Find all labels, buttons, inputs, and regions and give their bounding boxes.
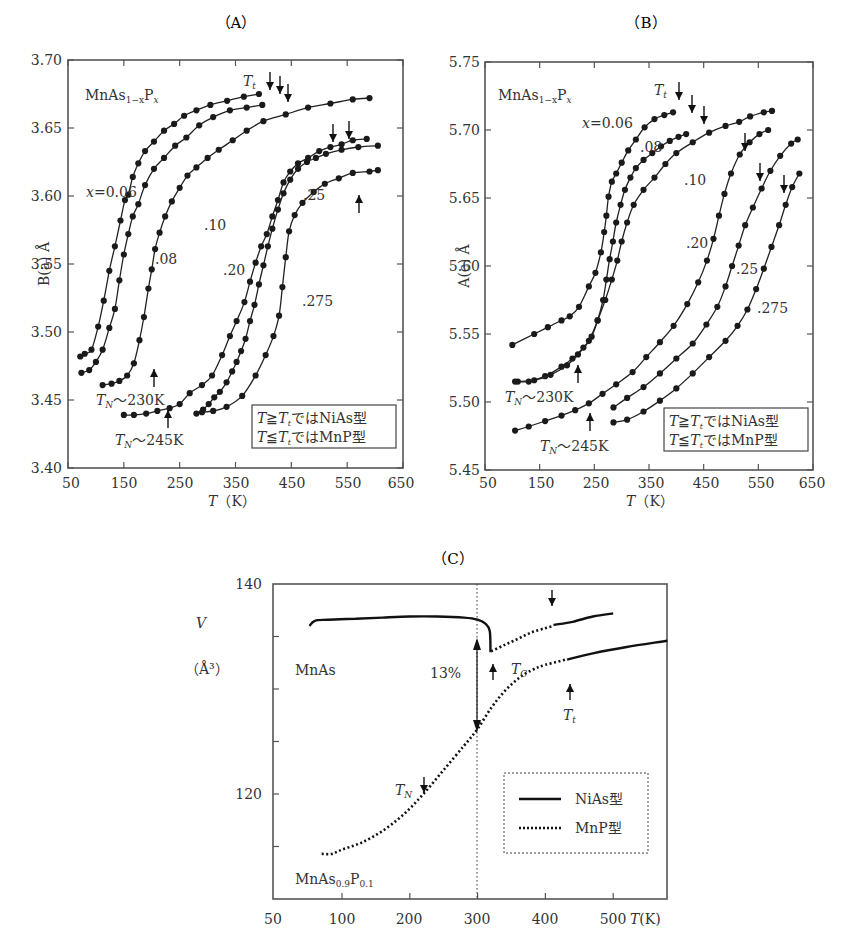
- arrow-down-icon: [675, 92, 683, 100]
- panel-c-x-axis-title: T(K): [630, 911, 661, 927]
- data-point: [512, 427, 518, 433]
- data-point: [280, 190, 286, 196]
- x-tick-label: 450: [693, 475, 720, 491]
- data-point: [151, 166, 157, 172]
- data-point: [640, 157, 646, 163]
- data-point: [737, 151, 743, 157]
- data-point: [305, 105, 311, 111]
- y-tick-label: 5.65: [449, 190, 480, 206]
- data-point: [78, 370, 84, 376]
- panel-c: （C） 140 120 50 100 200 300 400 500 T(K) …: [185, 550, 667, 927]
- data-point: [292, 212, 298, 218]
- data-point: [209, 372, 215, 378]
- data-point: [279, 284, 285, 290]
- data-point: [703, 321, 709, 327]
- data-point: [767, 168, 773, 174]
- data-point: [690, 340, 696, 346]
- y-tick-label: 3.60: [31, 188, 62, 204]
- data-point: [117, 217, 123, 223]
- data-point: [121, 251, 127, 257]
- data-point: [286, 228, 292, 234]
- data-point: [199, 382, 205, 388]
- data-point: [313, 155, 319, 161]
- tc-label: TC: [511, 661, 527, 679]
- data-point: [219, 352, 225, 358]
- thirteen-percent-label: 13%: [430, 665, 461, 681]
- data-point: [283, 254, 289, 260]
- data-point: [106, 325, 112, 331]
- data-point: [796, 170, 802, 176]
- data-point: [256, 281, 262, 287]
- panel-b: （B） 5.75 5.70 5.65 5.60 5.55 5.50 5.45 5…: [449, 14, 826, 509]
- data-point: [673, 355, 679, 361]
- data-point: [610, 404, 616, 410]
- data-point: [624, 395, 630, 401]
- data-point: [106, 268, 112, 274]
- data-point: [756, 131, 762, 137]
- data-point: [670, 109, 676, 115]
- data-point: [640, 384, 646, 390]
- tn-label: TN: [395, 782, 413, 800]
- data-point: [625, 147, 631, 153]
- curve-label-x006: x=0.06: [582, 115, 633, 131]
- data-point: [269, 213, 275, 219]
- panel-c-y-axis-unit: （Å³）: [185, 660, 229, 677]
- data-point: [657, 370, 663, 376]
- data-point: [610, 419, 616, 425]
- data-point: [242, 336, 248, 342]
- y-tick-label: 120: [235, 786, 262, 802]
- curve-label-x025: .25: [303, 187, 325, 203]
- data-point: [141, 314, 147, 320]
- data-point: [112, 306, 118, 312]
- data-point: [769, 108, 775, 114]
- x-tick-label: 250: [583, 475, 610, 491]
- data-point: [750, 204, 756, 210]
- mnas-p-label: MnAs0.9P0.1: [295, 871, 374, 889]
- x-tick-label: 200: [396, 911, 423, 927]
- data-point: [567, 313, 573, 319]
- data-point: [607, 256, 613, 262]
- data-point: [542, 418, 548, 424]
- data-point: [531, 331, 537, 337]
- panel-c-y-axis-title: V: [196, 615, 208, 631]
- data-point: [100, 347, 106, 353]
- data-point: [116, 277, 122, 283]
- x-tick-label: 500: [600, 911, 627, 927]
- data-point: [238, 348, 244, 354]
- panel-b-compound-label: MnAs1−xPx: [498, 87, 572, 105]
- y-tick-label: 140: [235, 576, 262, 592]
- data-point: [509, 342, 515, 348]
- data-point: [619, 238, 625, 244]
- data-point: [765, 127, 771, 133]
- data-point: [151, 139, 157, 145]
- x-tick-label: 400: [532, 911, 559, 927]
- data-point: [276, 313, 282, 319]
- panel-a-y-axis-title: B(a) Å: [35, 241, 52, 286]
- arrow-down-icon: [276, 86, 284, 94]
- data-point: [613, 219, 619, 225]
- arrow-up-icon: [586, 413, 594, 421]
- curve-x010: [103, 98, 370, 385]
- data-point: [156, 230, 162, 236]
- y-tick-label: 3.65: [31, 120, 62, 136]
- data-point: [633, 165, 639, 171]
- data-point: [275, 207, 281, 213]
- data-point: [777, 153, 783, 159]
- data-point: [592, 270, 598, 276]
- data-point: [130, 213, 136, 219]
- data-point: [675, 134, 681, 140]
- x-tick-label: 550: [335, 475, 362, 491]
- data-point: [239, 393, 245, 399]
- data-point: [244, 128, 250, 134]
- data-point: [224, 98, 230, 104]
- y-tick-label: 5.75: [449, 54, 480, 70]
- data-point: [744, 306, 750, 312]
- data-point: [216, 147, 222, 153]
- x-tick-label: 550: [748, 475, 775, 491]
- data-point: [112, 243, 118, 249]
- x-tick-label: 250: [167, 475, 194, 491]
- data-point: [586, 400, 592, 406]
- data-point: [671, 323, 677, 329]
- data-point: [135, 160, 141, 166]
- data-point: [338, 147, 344, 153]
